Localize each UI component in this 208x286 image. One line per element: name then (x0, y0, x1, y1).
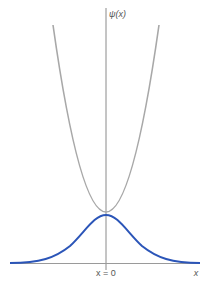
x-axis-label: x (193, 268, 199, 278)
y-axis-label: ψ(x) (109, 9, 126, 19)
origin-label: x = 0 (96, 268, 116, 278)
wavefunction-curve (10, 215, 200, 263)
wavefunction-diagram: ψ(x) x = 0 x (0, 0, 208, 286)
